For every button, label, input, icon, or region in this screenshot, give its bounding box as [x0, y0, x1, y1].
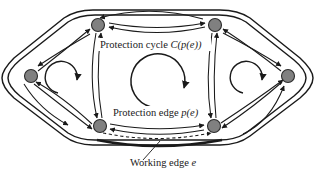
label-protection-cycle: Protection cycle C(p(e)) [98, 38, 211, 51]
label-protection-cycle-math: C(p(e)) [171, 39, 202, 51]
label-working-edge-text: Working edge e [130, 157, 197, 168]
label-working-edge: Working edge e [130, 157, 197, 168]
node-right[interactable] [282, 70, 295, 83]
node-top-right[interactable] [209, 19, 222, 32]
label-working-edge-math: e [192, 157, 197, 168]
label-protection-edge-text: Protection edge p(e) [113, 107, 199, 119]
node-left[interactable] [25, 70, 38, 83]
label-working-edge-plain: Working edge [130, 157, 192, 168]
node-bottom-right[interactable] [208, 120, 221, 133]
figure-root: Protection cycle C(p(e)) Protection edge… [0, 0, 321, 180]
node-bottom-left[interactable] [94, 120, 107, 133]
label-protection-edge: Protection edge p(e) [111, 106, 207, 119]
node-top-left[interactable] [92, 19, 105, 32]
label-protection-cycle-plain: Protection cycle [100, 39, 171, 50]
label-protection-edge-plain: Protection edge [113, 107, 181, 118]
label-protection-cycle-text: Protection cycle C(p(e)) [100, 39, 202, 51]
network-protection-diagram: Protection cycle C(p(e)) Protection edge… [0, 0, 321, 180]
label-protection-edge-math: p(e) [180, 107, 198, 119]
